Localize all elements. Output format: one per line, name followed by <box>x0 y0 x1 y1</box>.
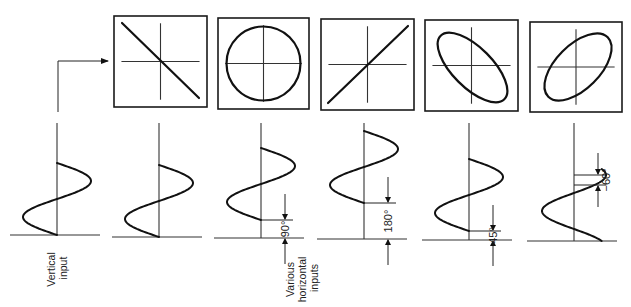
lissajous-trace <box>427 22 519 114</box>
phase-label: 90° <box>279 221 291 238</box>
phase-dimension: 90° <box>261 194 293 264</box>
phase-label: 45° <box>487 227 499 244</box>
lissajous-diagram: 90°180°45°−60° Vertical input Various ho… <box>0 0 631 307</box>
screen-5 <box>530 22 623 113</box>
phase-dimension: 180° <box>364 177 396 265</box>
phase-label: 180° <box>382 210 394 233</box>
vertical-input-waveform <box>10 123 100 235</box>
oscilloscope-screens <box>114 16 623 113</box>
phase-label: −60° <box>600 168 612 191</box>
input-waveforms: 90°180°45°−60° <box>10 123 617 266</box>
horizontal-inputs-label: Various horizontal inputs <box>284 254 320 302</box>
arrow-icon <box>58 61 108 112</box>
horizontal-3-waveform: 180° <box>317 123 407 265</box>
horizontal-1-waveform <box>112 123 202 237</box>
horizontal-2-waveform: 90° <box>214 123 304 264</box>
phase-dimension: 45° <box>469 205 501 266</box>
horizontal-5-waveform: −60° <box>527 123 617 241</box>
vertical-input-label: Vertical input <box>45 249 69 286</box>
screen-2 <box>218 18 309 109</box>
screen-4 <box>425 20 518 113</box>
horizontal-4-waveform: 45° <box>422 123 512 266</box>
screen-3 <box>321 19 414 110</box>
signal-connector-arrow <box>58 61 108 112</box>
screen-1 <box>114 16 207 107</box>
caption-labels: Vertical input Various horizontal inputs <box>45 249 320 302</box>
phase-dimension: −60° <box>574 153 612 207</box>
